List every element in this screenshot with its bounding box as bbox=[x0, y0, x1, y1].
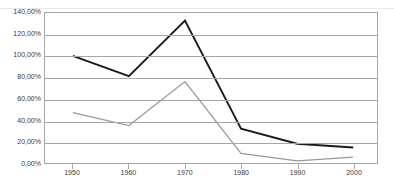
gridline bbox=[45, 56, 377, 57]
series-line-series-black bbox=[73, 21, 353, 148]
y-axis-label: 60,00% bbox=[1, 95, 41, 103]
y-axis-label: 40,00% bbox=[1, 117, 41, 125]
x-axis: 195019601970198019902000 bbox=[44, 169, 378, 181]
x-axis-label: 1980 bbox=[221, 169, 261, 176]
x-axis-label: 1990 bbox=[278, 169, 318, 176]
x-axis-label: 1960 bbox=[108, 169, 148, 176]
gridline bbox=[45, 122, 377, 123]
y-axis-label: 0,00% bbox=[1, 160, 41, 168]
gridline bbox=[45, 143, 377, 144]
y-axis-label: 120,00% bbox=[1, 30, 41, 38]
y-axis: 0,00%20,00%40,00%60,00%80,00%100,00%120,… bbox=[0, 12, 41, 164]
gridline bbox=[45, 35, 377, 36]
plot-area bbox=[44, 12, 378, 164]
top-divider bbox=[0, 8, 394, 9]
x-axis-label: 1970 bbox=[165, 169, 205, 176]
x-axis-label: 2000 bbox=[334, 169, 374, 176]
y-axis-label: 140,00% bbox=[1, 8, 41, 16]
y-axis-label: 80,00% bbox=[1, 73, 41, 81]
y-axis-label: 20,00% bbox=[1, 138, 41, 146]
gridline bbox=[45, 100, 377, 101]
x-axis-label: 1950 bbox=[52, 169, 92, 176]
line-chart: 0,00%20,00%40,00%60,00%80,00%100,00%120,… bbox=[0, 0, 394, 195]
gridline bbox=[45, 78, 377, 79]
y-axis-label: 100,00% bbox=[1, 51, 41, 59]
